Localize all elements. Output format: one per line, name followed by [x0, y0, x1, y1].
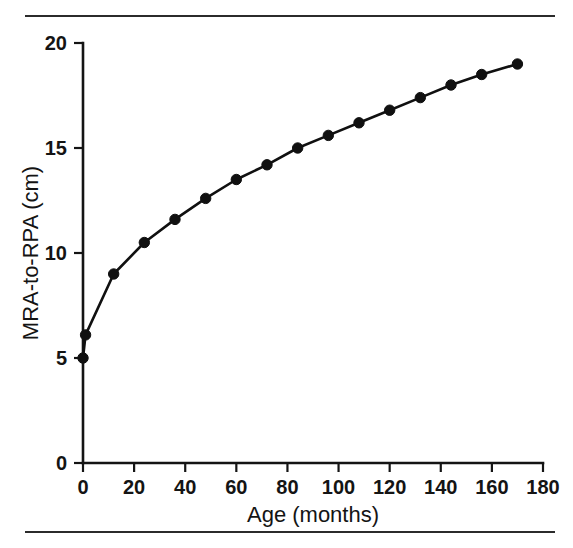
bottom-divider-rule — [25, 531, 555, 533]
y-axis-title: MRA-to-RPA (cm) — [18, 166, 43, 340]
data-point — [292, 143, 302, 153]
data-point — [323, 130, 333, 140]
x-tick-label: 140 — [424, 476, 457, 498]
data-series-markers — [78, 59, 523, 363]
y-tick-label: 5 — [56, 347, 67, 369]
x-tick-label: 100 — [322, 476, 355, 498]
y-tick-label: 0 — [56, 452, 67, 474]
y-tick-label: 10 — [45, 242, 67, 264]
x-tick-label: 160 — [475, 476, 508, 498]
x-axis-title: Age (months) — [247, 502, 379, 527]
y-tick-label: 20 — [45, 32, 67, 54]
data-point — [384, 105, 394, 115]
x-axis: 020406080100120140160180 — [77, 463, 559, 498]
x-tick-label: 20 — [123, 476, 145, 498]
y-axis-ticks — [74, 43, 83, 463]
data-point — [262, 160, 272, 170]
x-tick-label: 0 — [77, 476, 88, 498]
figure-panel: 05101520 020406080100120140160180 Age (m… — [0, 0, 573, 548]
data-series-line — [83, 64, 517, 358]
y-axis: 05101520 — [45, 32, 83, 474]
data-point — [231, 174, 241, 184]
data-point — [139, 237, 149, 247]
data-point — [170, 214, 180, 224]
data-point — [476, 69, 486, 79]
x-tick-label: 80 — [276, 476, 298, 498]
x-tick-label: 40 — [174, 476, 196, 498]
x-tick-label: 180 — [526, 476, 559, 498]
x-axis-tick-labels: 020406080100120140160180 — [77, 476, 559, 498]
x-tick-label: 120 — [373, 476, 406, 498]
y-tick-label: 15 — [45, 137, 67, 159]
data-point — [78, 353, 88, 363]
data-point — [446, 80, 456, 90]
data-point — [80, 330, 90, 340]
data-point — [512, 59, 522, 69]
data-point — [354, 118, 364, 128]
data-point — [108, 269, 118, 279]
data-point — [415, 92, 425, 102]
y-axis-tick-labels: 05101520 — [45, 32, 67, 474]
x-tick-label: 60 — [225, 476, 247, 498]
line-chart: 05101520 020406080100120140160180 Age (m… — [0, 0, 573, 548]
x-axis-ticks — [83, 463, 543, 472]
top-divider-rule — [25, 15, 555, 17]
data-point — [200, 193, 210, 203]
